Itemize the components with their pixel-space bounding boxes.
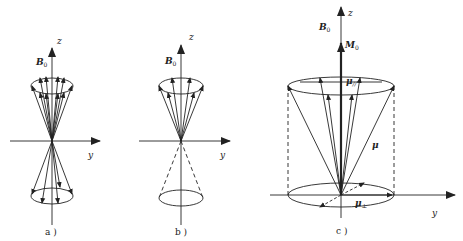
panel-c-mu-label: μ [372, 140, 379, 150]
panel-c-caption: c ) [336, 226, 347, 236]
panel-a-y-label: y [87, 150, 94, 160]
panel-b-caption: b ) [175, 227, 187, 237]
panel-a-field-label: B0 [35, 57, 48, 68]
panel-c [270, 7, 455, 218]
panel-c-y-label: y [431, 208, 438, 218]
panel-a [10, 48, 100, 225]
panel-a-caption: a ) [45, 227, 57, 237]
panel-c-field-label: B0 [318, 22, 331, 33]
panel-c-z-label: z [347, 8, 353, 18]
panel-c-magnetization-label: M0 [344, 40, 359, 51]
precession-diagram: z y B0 a ) z y B0 b ) [0, 0, 463, 241]
perp-component-dashed-1 [341, 183, 364, 195]
panel-b-field-label: B0 [164, 56, 177, 67]
panel-c-mu-perp-label: μ⊥ [355, 198, 367, 209]
panel-b [139, 45, 230, 225]
perp-component-dashed-2 [320, 195, 341, 207]
panel-b-z-label: z [188, 32, 194, 42]
panel-b-y-label: y [219, 150, 226, 160]
panel-a-z-label: z [56, 36, 62, 46]
